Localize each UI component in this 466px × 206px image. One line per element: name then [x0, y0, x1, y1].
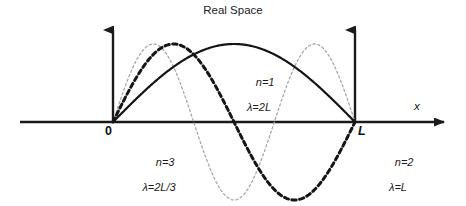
annotation-n1-mode: n=1: [256, 76, 275, 88]
x-axis-tick-label-0: 0: [105, 124, 112, 138]
annotation-mode-n1: n=1 λ=2L: [228, 63, 290, 139]
x-axis-label: x: [414, 100, 420, 113]
annotation-n2-wavelength: λ=L: [368, 181, 428, 194]
annotation-mode-n2: n=2 λ=L: [368, 143, 428, 206]
annotation-mode-n3: n=3 λ=2L/3: [122, 143, 196, 206]
x-axis-tick-label-L: L: [358, 124, 366, 138]
annotation-n3-mode: n=3: [156, 156, 175, 168]
real-space-wavefunction-figure: Real Space 0 L x n=1 λ=2L n=3 λ=2: [0, 0, 466, 206]
annotation-n3-wavelength: λ=2L/3: [122, 181, 196, 194]
annotation-n1-wavelength: λ=2L: [228, 101, 290, 114]
annotation-n2-mode: n=2: [395, 156, 414, 168]
